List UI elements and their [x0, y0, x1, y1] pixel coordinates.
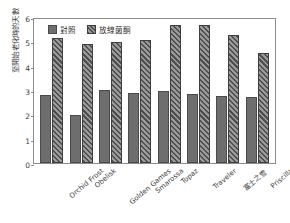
bar-treatment	[170, 25, 181, 163]
y-tick-label-1: 1	[18, 136, 30, 145]
bar-treatment	[111, 42, 122, 163]
bar-treatment	[199, 25, 210, 163]
bar-control	[99, 90, 110, 163]
plot-area: 對照 放線菌酮 0123456	[33, 18, 276, 164]
x-tick-label-6: 富士之雪	[240, 167, 268, 193]
bar-treatment	[140, 40, 151, 163]
y-tick-label-4: 4	[18, 63, 30, 72]
bar-treatment	[258, 53, 269, 163]
bar-control	[187, 94, 198, 163]
x-tick-label-7: Priscilla	[270, 167, 290, 190]
y-tick-label-6: 6	[18, 15, 30, 24]
bar-group	[187, 17, 210, 163]
bar-control	[216, 96, 227, 163]
y-tick-label-0: 0	[18, 161, 30, 170]
bar-group	[70, 17, 93, 163]
bar-control	[40, 95, 51, 163]
bar-treatment	[82, 44, 93, 163]
bar-group	[128, 17, 151, 163]
bar-group	[216, 17, 239, 163]
y-tick-label-3: 3	[18, 88, 30, 97]
bar-group	[40, 17, 63, 163]
bar-group	[246, 17, 269, 163]
bar-series-container	[34, 17, 275, 163]
y-tick-mark-0	[31, 165, 34, 166]
bar-group	[158, 17, 181, 163]
bar-control	[70, 115, 81, 163]
bar-control	[158, 91, 169, 163]
bar-chart-figure: 至開始老化時的天數 對照 放線菌酮 0123456 Orchid FrostOb…	[0, 0, 290, 223]
bar-treatment	[52, 38, 63, 163]
y-tick-label-5: 5	[18, 39, 30, 48]
bar-group	[99, 17, 122, 163]
y-tick-label-2: 2	[18, 112, 30, 121]
bar-control	[246, 97, 257, 163]
bar-treatment	[228, 35, 239, 163]
bar-control	[128, 93, 139, 163]
x-tick-label-5: Traveler	[211, 167, 238, 191]
